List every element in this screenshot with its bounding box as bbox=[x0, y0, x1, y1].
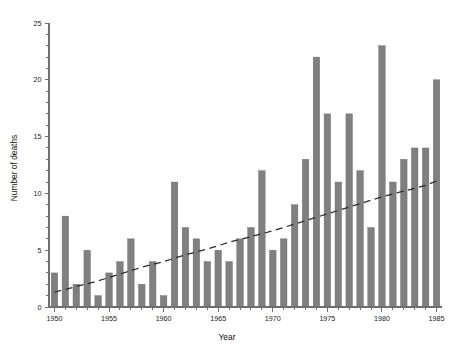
x-axis-tick-labels: 19501955196019651970197519801985 bbox=[46, 314, 444, 323]
x-tick-label: 1975 bbox=[319, 314, 335, 323]
y-axis-title: Number of deaths bbox=[9, 135, 19, 202]
bars-group bbox=[51, 46, 440, 307]
y-tick-label: 10 bbox=[34, 189, 42, 198]
x-tick-label: 1965 bbox=[210, 314, 226, 323]
bar bbox=[390, 182, 397, 307]
y-axis-tick-labels: 0510152025 bbox=[34, 19, 42, 312]
x-axis-title: Year bbox=[219, 332, 236, 342]
y-tick-label: 0 bbox=[38, 303, 42, 312]
bar bbox=[280, 239, 287, 307]
bar bbox=[401, 159, 408, 307]
bar bbox=[324, 114, 331, 307]
y-axis-ticks bbox=[45, 23, 50, 307]
bar bbox=[51, 273, 58, 307]
bar-chart-plot: 19501955196019651970197519801985 0510152… bbox=[0, 0, 453, 351]
x-tick-label: 1980 bbox=[374, 314, 390, 323]
bar bbox=[302, 159, 309, 307]
bar bbox=[248, 227, 255, 307]
bar bbox=[128, 239, 135, 307]
bar bbox=[335, 182, 342, 307]
bar bbox=[270, 250, 277, 307]
bar bbox=[204, 262, 211, 307]
chart-figure: 19501955196019651970197519801985 0510152… bbox=[0, 0, 453, 351]
bar bbox=[433, 80, 440, 307]
bar bbox=[313, 57, 320, 307]
bar bbox=[291, 205, 298, 307]
y-tick-label: 20 bbox=[34, 75, 42, 84]
bar bbox=[357, 171, 364, 307]
x-tick-label: 1960 bbox=[156, 314, 172, 323]
y-tick-label: 5 bbox=[38, 246, 42, 255]
bar bbox=[422, 148, 429, 307]
bar bbox=[84, 250, 91, 307]
bar bbox=[171, 182, 178, 307]
bar bbox=[106, 273, 113, 307]
bar bbox=[259, 171, 266, 307]
bar bbox=[95, 296, 102, 307]
y-tick-label: 15 bbox=[34, 132, 42, 141]
x-tick-label: 1985 bbox=[429, 314, 445, 323]
x-axis-ticks bbox=[54, 307, 436, 312]
bar bbox=[160, 296, 167, 307]
x-tick-label: 1950 bbox=[46, 314, 62, 323]
bar bbox=[73, 284, 80, 307]
x-tick-label: 1970 bbox=[265, 314, 281, 323]
bar bbox=[226, 262, 233, 307]
bar bbox=[237, 239, 244, 307]
bar bbox=[346, 114, 353, 307]
x-tick-label: 1955 bbox=[101, 314, 117, 323]
bar bbox=[139, 284, 146, 307]
bar bbox=[117, 262, 124, 307]
bar bbox=[62, 216, 69, 307]
bar bbox=[149, 262, 156, 307]
y-tick-label: 25 bbox=[34, 19, 42, 28]
bar bbox=[379, 46, 386, 307]
bar bbox=[182, 227, 189, 307]
bar bbox=[368, 227, 375, 307]
bar bbox=[215, 250, 222, 307]
bar bbox=[193, 239, 200, 307]
bar bbox=[411, 148, 418, 307]
